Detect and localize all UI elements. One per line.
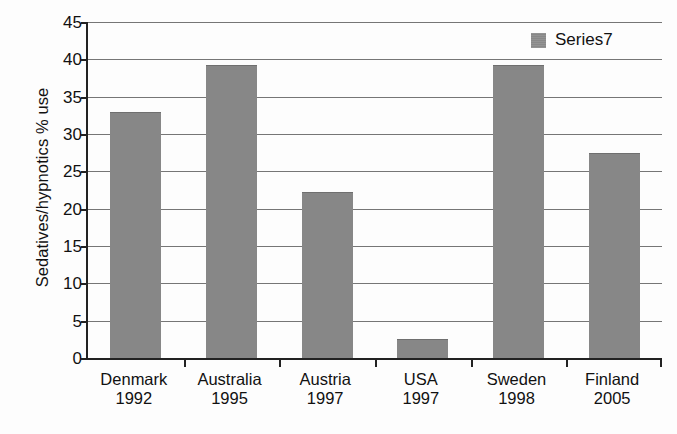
y-axis-tick — [81, 246, 88, 248]
bar — [397, 339, 448, 358]
bar — [493, 65, 544, 358]
gridline — [88, 283, 662, 284]
y-axis-tick-label: 10 — [36, 275, 82, 292]
x-axis-category-label: Finland2005 — [558, 370, 666, 408]
x-axis-category-label: Sweden1998 — [463, 370, 571, 408]
x-axis-category-label: Denmark1992 — [80, 370, 188, 408]
y-axis-tick — [81, 59, 88, 61]
x-axis-category-label: Austria1997 — [271, 370, 379, 408]
y-axis-tick-label: 45 — [36, 14, 82, 31]
y-axis-tick — [81, 97, 88, 99]
bar-chart-figure: Sedatives/hypnotics % use 05101520253035… — [0, 0, 677, 434]
category-country: Sweden — [463, 370, 571, 389]
y-axis-tick-label: 30 — [36, 126, 82, 143]
y-axis-tick-label: 15 — [36, 238, 82, 255]
gridline — [88, 321, 662, 322]
legend: Series7 — [531, 30, 613, 50]
x-axis-right-cap — [660, 358, 662, 367]
x-axis-category-label: USA1997 — [367, 370, 475, 408]
y-axis-tick — [81, 22, 88, 24]
category-year: 1998 — [463, 389, 571, 408]
bar — [302, 192, 353, 358]
y-axis-tick — [81, 134, 88, 136]
y-axis-tick — [81, 209, 88, 211]
category-country: Denmark — [80, 370, 188, 389]
plot-area — [86, 22, 662, 360]
category-year: 1997 — [271, 389, 379, 408]
category-country: Austria — [271, 370, 379, 389]
bar — [589, 153, 640, 358]
y-axis-tick — [81, 283, 88, 285]
x-axis-tick — [471, 358, 473, 367]
category-country: Finland — [558, 370, 666, 389]
x-axis-tick — [566, 358, 568, 367]
legend-swatch-series7 — [531, 33, 546, 48]
gridline — [88, 171, 662, 172]
gridline — [88, 97, 662, 98]
x-axis-tick — [375, 358, 377, 367]
category-year: 1997 — [367, 389, 475, 408]
gridline — [88, 134, 662, 135]
y-axis-tick-label: 25 — [36, 163, 82, 180]
gridline — [88, 246, 662, 247]
gridline — [88, 209, 662, 210]
x-axis-tick — [184, 358, 186, 367]
y-axis-tick-label: 20 — [36, 200, 82, 217]
gridline — [88, 22, 662, 23]
x-axis-tick — [279, 358, 281, 367]
x-axis-category-label: Australia1995 — [176, 370, 284, 408]
category-country: USA — [367, 370, 475, 389]
legend-label-series7: Series7 — [555, 30, 613, 50]
y-axis-tick-label: 5 — [36, 312, 82, 329]
category-year: 1995 — [176, 389, 284, 408]
bar — [206, 65, 257, 358]
gridline — [88, 59, 662, 60]
y-axis-tick — [81, 171, 88, 173]
category-year: 1992 — [80, 389, 188, 408]
category-country: Australia — [176, 370, 284, 389]
bar — [110, 112, 161, 358]
category-year: 2005 — [558, 389, 666, 408]
y-axis-tick-labels: 051015202530354045 — [36, 0, 82, 434]
y-axis-tick — [81, 321, 88, 323]
y-axis-tick — [81, 358, 88, 360]
y-axis-tick-label: 40 — [36, 51, 82, 68]
y-axis-tick-label: 0 — [36, 350, 82, 367]
y-axis-tick-label: 35 — [36, 88, 82, 105]
